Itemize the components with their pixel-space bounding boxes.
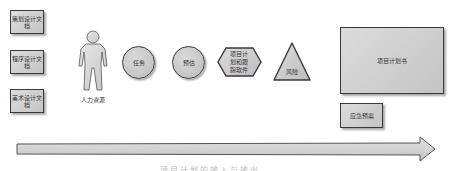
- design-doc-program: 程序设计文档: [10, 50, 44, 74]
- project-plan-box: 项目计划书: [340, 27, 444, 94]
- timeline-arrow: [16, 136, 436, 162]
- risk-label: 风险: [280, 67, 304, 76]
- contingency-plan-box: 应急预案: [340, 103, 383, 128]
- caption-partial: 项目计划的输入与输出: [160, 164, 300, 171]
- design-doc-planning-label: 策划设计文档: [11, 15, 43, 30]
- design-doc-planning: 策划设计文档: [10, 10, 44, 34]
- design-doc-art-label: 美术设计文档: [11, 94, 43, 109]
- tracking-software-line-1: 项目计: [224, 50, 254, 58]
- task-label: 任务: [133, 59, 145, 67]
- tracking-software-label: 项目计 划和跟 踪软件: [224, 50, 254, 74]
- human-resource-label: 人力资源: [72, 95, 114, 104]
- estimate-label: 预估: [183, 59, 195, 67]
- tracking-software-line-3: 踪软件: [224, 66, 254, 74]
- person-icon: [77, 30, 109, 92]
- contingency-plan-label: 应急预案: [350, 112, 374, 120]
- task-node: 任务: [122, 46, 155, 79]
- design-doc-art: 美术设计文档: [10, 89, 44, 113]
- design-doc-program-label: 程序设计文档: [11, 55, 43, 70]
- tracking-software-line-2: 划和跟: [224, 58, 254, 66]
- estimate-node: 预估: [172, 46, 205, 79]
- project-plan-label: 项目计划书: [377, 57, 407, 65]
